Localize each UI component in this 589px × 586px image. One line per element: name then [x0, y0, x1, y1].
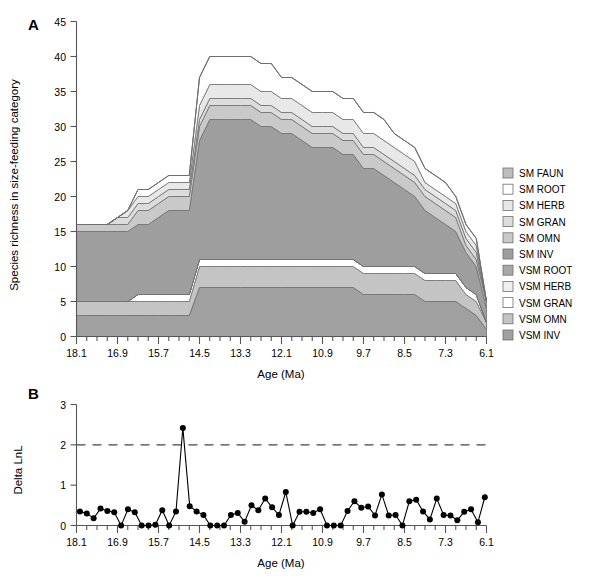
legend: SM FAUNSM ROOTSM HERBSM GRANSM OMNSM INV…: [503, 168, 572, 341]
legend-swatch-vsm-root: [503, 265, 513, 275]
x-tick-label: 8.5: [397, 347, 412, 359]
data-point: [358, 505, 364, 511]
x-tick-label: 7.3: [438, 536, 453, 548]
legend-swatch-sm-root: [503, 184, 513, 194]
panel-b-x-axis-title: Age (Ma): [257, 557, 304, 569]
data-point: [125, 506, 131, 512]
data-point: [283, 489, 289, 495]
data-point: [228, 512, 234, 518]
panel-a-stacked-areas: [77, 57, 487, 337]
x-tick-label: 12.1: [271, 347, 292, 359]
data-point: [434, 495, 440, 501]
x-tick-label: 16.9: [107, 347, 128, 359]
data-point: [98, 506, 104, 512]
panel-a: A Species richness in size-feeding categ…: [8, 16, 494, 381]
y-tick-label: 5: [60, 296, 66, 308]
legend-label-sm-inv: SM INV: [519, 249, 554, 260]
panel-a-letter: A: [28, 16, 39, 33]
legend-label-sm-gran: SM GRAN: [519, 217, 566, 228]
data-point: [180, 425, 186, 431]
data-point: [111, 509, 117, 515]
legend-swatch-sm-omn: [503, 233, 513, 243]
data-point: [338, 523, 344, 529]
data-point: [207, 523, 213, 529]
data-point: [173, 508, 179, 514]
data-point: [310, 510, 316, 516]
y-tick-label: 0: [60, 520, 66, 532]
data-point: [235, 510, 241, 516]
data-point: [468, 506, 474, 512]
y-tick-label: 15: [54, 226, 66, 238]
data-point: [91, 515, 97, 521]
x-tick-label: 14.5: [189, 536, 210, 548]
x-tick-label: 7.3: [438, 347, 453, 359]
y-tick-label: 2: [60, 439, 66, 451]
legend-swatch-sm-herb: [503, 200, 513, 210]
data-point: [351, 498, 357, 504]
data-point: [454, 517, 460, 523]
data-point: [214, 523, 220, 529]
x-tick-label: 9.7: [356, 536, 371, 548]
x-tick-label: 14.5: [189, 347, 210, 359]
data-point: [146, 523, 152, 529]
data-point: [447, 512, 453, 518]
data-point: [427, 516, 433, 522]
data-point: [331, 523, 337, 529]
data-point: [345, 508, 351, 514]
y-tick-label: 40: [54, 51, 66, 63]
x-tick-label: 18.1: [66, 347, 87, 359]
x-tick-label: 6.1: [479, 347, 494, 359]
x-tick-label: 16.9: [107, 536, 128, 548]
legend-label-sm-root: SM ROOT: [519, 184, 566, 195]
data-point: [461, 509, 467, 515]
data-point: [248, 502, 254, 508]
data-point: [187, 503, 193, 509]
legend-swatch-vsm-herb: [503, 281, 513, 291]
x-tick-label: 13.3: [230, 536, 251, 548]
legend-label-vsm-gran: VSM GRAN: [519, 298, 572, 309]
panel-a-x-axis-title: Age (Ma): [257, 368, 304, 380]
data-point: [159, 507, 165, 513]
legend-swatch-sm-faun: [503, 168, 513, 178]
x-tick-label: 12.1: [271, 536, 292, 548]
data-point: [393, 512, 399, 518]
data-point: [152, 522, 158, 528]
data-point: [200, 512, 206, 518]
data-point: [297, 509, 303, 515]
x-tick-label: 15.7: [148, 536, 169, 548]
data-point: [276, 512, 282, 518]
data-point: [118, 523, 124, 529]
data-point: [139, 523, 145, 529]
y-tick-label: 45: [54, 16, 66, 28]
legend-swatch-sm-gran: [503, 217, 513, 227]
data-point: [269, 504, 275, 510]
data-point: [290, 523, 296, 529]
data-point: [194, 508, 200, 514]
data-point: [255, 507, 261, 513]
panel-a-ticks: 051015202530354045: [54, 16, 76, 343]
panel-b-y-axis-title: Delta LnL: [12, 445, 24, 495]
x-tick-label: 6.1: [479, 536, 494, 548]
data-point: [386, 512, 392, 518]
y-tick-label: 3: [60, 399, 66, 411]
legend-label-sm-faun: SM FAUN: [519, 168, 563, 179]
panel-b: B Delta LnL 0123 18.116.915.714.513.312.…: [12, 385, 494, 569]
panel-a-y-axis-title: Species richness in size-feeding categor…: [8, 79, 20, 291]
data-point: [365, 504, 371, 510]
panel-b-ticks: 0123: [60, 399, 76, 532]
data-point: [132, 509, 138, 515]
data-point: [242, 519, 248, 525]
data-point: [221, 523, 227, 529]
x-tick-label: 13.3: [230, 347, 251, 359]
panel-a-x-ticks: 18.116.915.714.513.312.110.99.78.57.36.1: [66, 337, 494, 360]
data-point: [406, 498, 412, 504]
legend-label-vsm-omn: VSM OMN: [519, 314, 567, 325]
x-tick-label: 8.5: [397, 536, 412, 548]
y-tick-label: 10: [54, 261, 66, 273]
figure-root: A Species richness in size-feeding categ…: [0, 0, 589, 586]
y-tick-label: 0: [60, 331, 66, 343]
legend-label-sm-herb: SM HERB: [519, 200, 565, 211]
data-point: [399, 523, 405, 529]
data-point: [262, 495, 268, 501]
legend-label-vsm-herb: VSM HERB: [519, 281, 572, 292]
